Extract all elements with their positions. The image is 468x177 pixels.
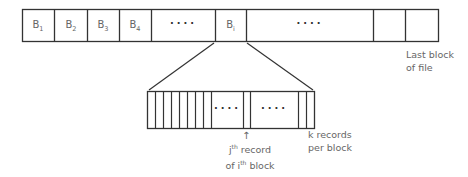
ellipsis-bottom-right: ···· [251,103,298,114]
block-label-b2: B2 [55,19,87,33]
block-label-b1: B1 [22,19,54,33]
block-label-b3: B3 [87,19,119,33]
jth-record-label: jth record of ith block [219,140,281,172]
ellipsis-top-right: ···· [247,18,373,29]
block-label-bi: Bi [215,19,246,33]
last-block-label: Last block of file [406,48,454,74]
block-label-b4: B4 [119,19,151,33]
ellipsis-bottom-left: ···· [212,103,243,114]
ellipsis-top-left: ···· [152,18,215,29]
k-records-label: k records per block [308,128,352,154]
